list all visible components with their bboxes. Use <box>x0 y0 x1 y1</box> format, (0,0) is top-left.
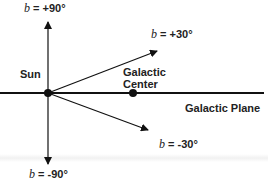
angle-value: = +30° <box>160 28 193 40</box>
angle-value: = +90° <box>33 2 66 14</box>
label-plus-90: b = +90° <box>24 2 66 14</box>
diagram-graphics <box>0 0 268 185</box>
angle-value: = -90° <box>38 168 68 180</box>
label-minus-30: b = -30° <box>159 138 198 150</box>
latitude-symbol: b <box>24 1 30 15</box>
latitude-symbol: b <box>151 27 157 41</box>
latitude-symbol: b <box>159 137 165 151</box>
arrow-minus-30 <box>48 93 148 130</box>
latitude-symbol: b <box>29 167 35 181</box>
label-sun: Sun <box>20 68 41 80</box>
label-minus-90: b = -90° <box>29 168 68 180</box>
sun-dot <box>44 89 52 97</box>
label-galactic-plane: Galactic Plane <box>185 102 260 114</box>
angle-value: = -30° <box>168 138 198 150</box>
galactic-center-dot <box>129 89 137 97</box>
label-plus-30: b = +30° <box>151 28 193 40</box>
label-galactic-center-line2: Center <box>123 78 158 90</box>
galactic-latitude-diagram: b = +90° Sun b = +30° Galactic Center Ga… <box>0 0 268 185</box>
label-galactic-center-line1: Galactic <box>123 66 166 78</box>
